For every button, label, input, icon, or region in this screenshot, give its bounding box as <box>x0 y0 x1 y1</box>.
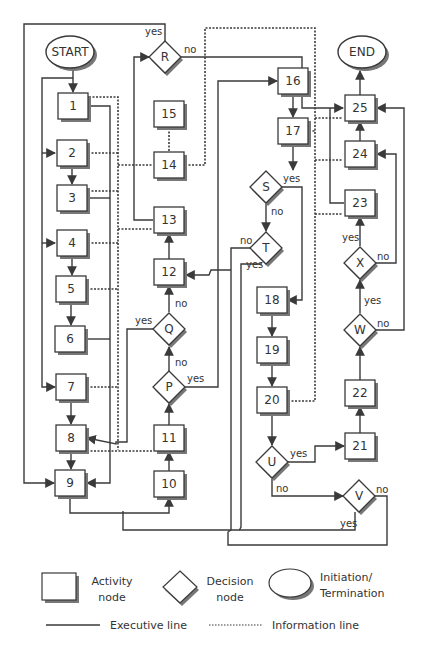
edge-label: yes <box>290 448 307 459</box>
decision-node-S: S <box>250 171 284 206</box>
activity-node-1: 1 <box>58 93 91 122</box>
edge-label: yes <box>246 259 263 270</box>
legend-activity-icon <box>42 573 79 603</box>
edge-label: yes <box>342 232 359 243</box>
edge-label: no <box>276 483 288 494</box>
activity-node-label: 24 <box>352 147 367 161</box>
legend-terminal-icon <box>269 569 314 600</box>
activity-node-21: 21 <box>345 433 378 462</box>
decision-node-label: R <box>161 50 169 64</box>
activity-node-label: 1 <box>69 99 77 113</box>
activity-node-16: 16 <box>278 68 311 97</box>
legend-activity-line2: node <box>98 591 126 604</box>
activity-node-label: 11 <box>161 431 176 445</box>
decision-node-R: R <box>149 41 183 76</box>
decision-node-label: W <box>354 323 366 337</box>
activity-node-22: 22 <box>345 380 378 409</box>
activity-node-15: 15 <box>154 101 187 130</box>
decision-node-Q: Q <box>153 313 187 348</box>
activity-node-label: 10 <box>161 477 176 491</box>
start-label: START <box>51 45 89 59</box>
activity-node-11: 11 <box>154 425 187 454</box>
activity-node-20: 20 <box>257 387 290 416</box>
activity-node-label: 19 <box>264 343 279 357</box>
edge-label: yes <box>145 26 162 37</box>
legend-decision-icon <box>163 571 199 606</box>
edge-label: no <box>175 298 187 309</box>
edge-label: no <box>376 484 388 495</box>
activity-node-label: 25 <box>352 101 367 115</box>
activity-node-label: 7 <box>67 380 75 394</box>
activity-node-2: 2 <box>57 140 90 169</box>
activity-node-label: 5 <box>67 282 75 296</box>
legend-information-line-label: Information line <box>272 619 359 632</box>
legend-terminal-line1: Initiation/ <box>320 571 372 584</box>
edge-label: no <box>240 235 252 246</box>
activity-node-14: 14 <box>154 152 187 181</box>
activity-node-label: 13 <box>161 213 176 227</box>
decision-node-label: U <box>268 455 277 469</box>
edge-label: yes <box>187 373 204 384</box>
activity-node-label: 8 <box>67 431 75 445</box>
edge-label: no <box>377 318 389 329</box>
decision-node-label: Q <box>164 322 173 336</box>
legend-decision-line2: node <box>216 591 244 604</box>
activity-node-3: 3 <box>57 185 90 214</box>
activity-node-label: 15 <box>161 107 176 121</box>
activity-node-label: 12 <box>161 265 176 279</box>
activity-node-13: 13 <box>154 207 187 236</box>
terminal-end: END <box>338 36 389 71</box>
decision-node-label: X <box>356 256 364 270</box>
edge-label: no <box>271 206 283 217</box>
activity-node-label: 22 <box>352 386 367 400</box>
legend-activity-line1: Activity <box>91 575 133 588</box>
activity-node-label: 18 <box>264 293 279 307</box>
activity-node-label: 3 <box>68 191 76 205</box>
activity-node-7: 7 <box>56 374 89 403</box>
terminal-start: START <box>46 36 97 71</box>
activity-node-label: 9 <box>66 476 74 490</box>
flowchart-svg: START END 123456789101112131415161718192… <box>0 0 423 650</box>
decision-node-label: V <box>355 489 364 503</box>
activity-node-8: 8 <box>56 425 89 454</box>
decision-node-label: T <box>261 241 270 255</box>
decision-node-label: P <box>165 380 172 394</box>
activity-node-label: 20 <box>264 393 279 407</box>
activity-node-23: 23 <box>345 190 378 219</box>
edge-label: yes <box>364 295 381 306</box>
flowchart-canvas: START END 123456789101112131415161718192… <box>0 0 423 650</box>
edge-label: yes <box>135 315 152 326</box>
decision-node-X: X <box>344 247 378 282</box>
edge-label: no <box>184 44 196 55</box>
activity-node-25: 25 <box>345 95 378 124</box>
activity-node-12: 12 <box>154 259 187 288</box>
activity-node-label: 14 <box>161 158 176 172</box>
activity-node-label: 17 <box>285 124 300 138</box>
activity-node-6: 6 <box>55 326 88 355</box>
legend-executive-line-label: Executive line <box>110 619 187 632</box>
activity-node-label: 2 <box>68 146 76 160</box>
activity-node-5: 5 <box>56 276 89 305</box>
activity-node-label: 4 <box>68 236 76 250</box>
decision-node-label: S <box>262 180 270 194</box>
activity-node-label: 16 <box>285 74 300 88</box>
activity-node-4: 4 <box>57 230 90 259</box>
edge-label: no <box>377 251 389 262</box>
legend: Activity node Decision node Initiation/ … <box>42 569 385 632</box>
activity-node-24: 24 <box>345 141 378 170</box>
activity-node-label: 23 <box>352 196 367 210</box>
decision-node-W: W <box>344 314 378 349</box>
activity-node-17: 17 <box>278 118 311 147</box>
edge-label: yes <box>340 518 357 529</box>
activity-node-label: 6 <box>66 332 74 346</box>
legend-decision-line1: Decision <box>207 575 254 588</box>
activity-node-9: 9 <box>55 470 88 499</box>
edge-label: yes <box>283 173 300 184</box>
activity-node-label: 21 <box>352 439 367 453</box>
activity-node-19: 19 <box>257 337 290 366</box>
end-label: END <box>349 45 375 59</box>
legend-terminal-line2: Termination <box>319 587 385 600</box>
activity-node-10: 10 <box>154 471 187 500</box>
activity-node-18: 18 <box>257 287 290 316</box>
decision-node-V: V <box>343 480 377 515</box>
